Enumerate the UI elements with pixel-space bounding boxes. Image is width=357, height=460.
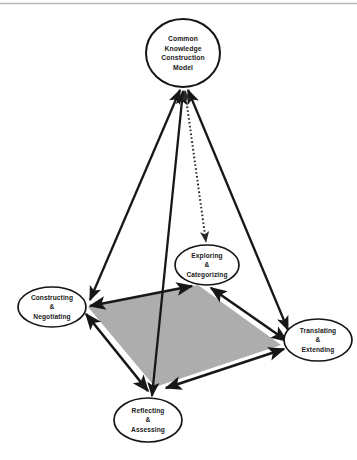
node-label-translating: &	[316, 336, 321, 343]
node-ellipse-apex	[146, 19, 220, 87]
node-label-constructing: &	[50, 303, 55, 310]
diagram-svg: CommonKnowledgeConstructionModelExplorin…	[0, 0, 357, 460]
node-label-constructing: Negotiating	[33, 313, 70, 321]
edge-apex-to-exploring-dotted	[185, 91, 206, 242]
node-label-apex: Construction	[161, 54, 205, 61]
node-label-apex: Common	[168, 35, 198, 42]
node-label-translating: Translating	[300, 327, 336, 335]
node-label-reflecting: Assessing	[131, 426, 165, 434]
nodes-layer: CommonKnowledgeConstructionModelExplorin…	[18, 19, 352, 442]
node-reflecting-and-assessing[interactable]: Reflecting&Assessing	[114, 398, 182, 442]
node-label-exploring: Categorizing	[186, 271, 227, 279]
node-label-apex: Knowledge	[164, 45, 201, 53]
node-translating-and-extending[interactable]: Translating&Extending	[284, 319, 352, 361]
node-label-reflecting: Reflecting	[132, 407, 165, 415]
diagram-canvas: CommonKnowledgeConstructionModelExplorin…	[0, 0, 357, 460]
node-constructing-and-negotiating[interactable]: Constructing&Negotiating	[18, 287, 86, 327]
node-common-knowledge-construction-model[interactable]: CommonKnowledgeConstructionModel	[146, 19, 220, 87]
node-label-reflecting: &	[146, 416, 151, 423]
node-label-exploring: Exploring	[191, 252, 222, 260]
node-label-constructing: Constructing	[31, 294, 73, 302]
edge-apex-to-constructing	[90, 90, 180, 300]
node-label-exploring: &	[205, 261, 210, 268]
node-label-apex: Model	[173, 64, 193, 71]
node-exploring-and-categorizing[interactable]: Exploring&Categorizing	[175, 245, 239, 285]
node-label-translating: Extending	[302, 346, 335, 354]
